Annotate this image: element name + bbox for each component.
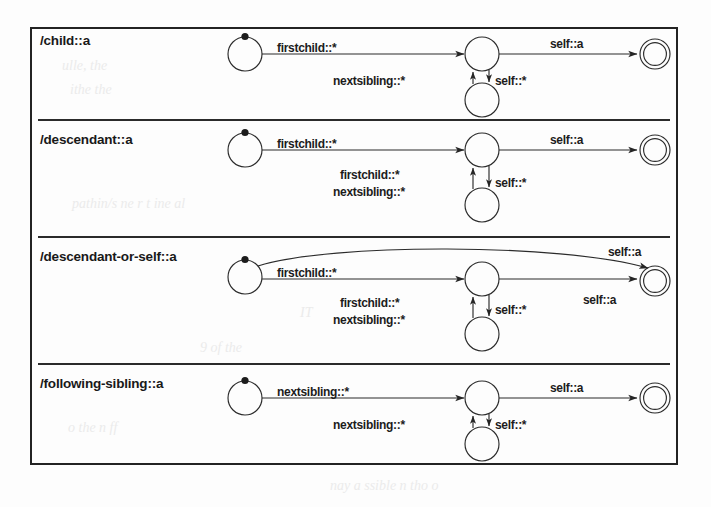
- middle-top-state-circle: [465, 37, 499, 71]
- start-state-dot: [241, 129, 248, 136]
- edge-label-firstchild: firstchild::*: [277, 266, 336, 280]
- final-state-outer-circle: [640, 135, 670, 165]
- edge-label-nextsibling: nextsibling::*: [333, 313, 405, 327]
- edge-label-self-star: self::*: [495, 74, 526, 88]
- edge-label-nextsibling: nextsibling::*: [333, 185, 405, 199]
- start-state-circle: [228, 260, 262, 294]
- edge-label-firstchild: firstchild::*: [277, 41, 336, 55]
- middle-top-state-circle: [465, 381, 499, 415]
- start-state-circle: [228, 37, 262, 71]
- middle-bottom-state-circle: [465, 188, 499, 222]
- middle-bottom-state-circle: [465, 317, 499, 351]
- middle-top-state-circle: [465, 133, 499, 167]
- middle-bottom-state-circle: [465, 427, 499, 461]
- final-state-inner-circle: [644, 139, 667, 162]
- edge-label-self-a: self::a: [550, 133, 583, 147]
- edge-label-self-a: self::a: [550, 37, 583, 51]
- edge-label-self-star: self::*: [495, 176, 526, 190]
- edge-label-nextsibling: nextsibling::*: [333, 74, 405, 88]
- edge-label-nextsibling-1: nextsibling::*: [277, 385, 349, 399]
- final-state-inner-circle: [644, 43, 667, 66]
- edge-label-firstchild: firstchild::*: [277, 137, 336, 151]
- panel-title-following-sibling: /following-sibling::a: [40, 376, 163, 391]
- panel-title-descendant: /descendant::a: [40, 132, 132, 147]
- start-state-dot: [241, 377, 248, 384]
- final-state-inner-circle: [644, 270, 667, 293]
- final-state-outer-circle: [640, 39, 670, 69]
- edge-label-self-a-curved: self::a: [608, 245, 641, 259]
- start-state-circle: [228, 381, 262, 415]
- scanned-page-background: ulle, the ithe the pathin/s ne r t ine a…: [0, 0, 711, 507]
- start-state-circle: [228, 133, 262, 167]
- panel-title-child: /child::a: [40, 33, 90, 48]
- panel-title-descendant-or-self: /descendant-or-self::a: [40, 249, 177, 264]
- edge-label-self-star: self::*: [495, 303, 526, 317]
- final-state-inner-circle: [644, 387, 667, 410]
- edge-label-nextsibling-2: nextsibling::*: [333, 418, 405, 432]
- edge-label-self-a: self::a: [583, 293, 616, 307]
- start-state-dot: [241, 33, 248, 40]
- edge-label-firstchild-2: firstchild::*: [340, 296, 399, 310]
- final-state-outer-circle: [640, 383, 670, 413]
- middle-top-state-circle: [465, 262, 499, 296]
- final-state-outer-circle: [640, 266, 670, 296]
- panel-divider: [38, 120, 670, 364]
- edge-label-self-a: self::a: [550, 381, 583, 395]
- middle-bottom-state-circle: [465, 83, 499, 117]
- edge-label-self-star: self::*: [495, 418, 526, 432]
- edge-label-firstchild-2: firstchild::*: [340, 168, 399, 182]
- start-state-dot: [241, 256, 248, 263]
